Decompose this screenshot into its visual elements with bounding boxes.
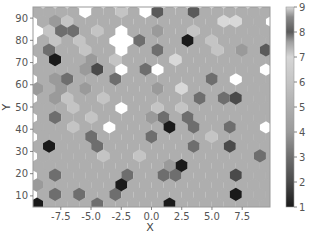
- colorbar-tick-label: 9: [299, 2, 305, 13]
- colorbar-tick-label: 2: [299, 177, 305, 188]
- hexbin-chart: -7.5-5.0-2.50.02.55.07.5 102030405060708…: [0, 0, 313, 236]
- colorbar-tick-label: 4: [299, 127, 305, 138]
- x-tick-label: 5.0: [204, 211, 220, 222]
- x-tick-label: 7.5: [234, 211, 250, 222]
- hexbin-cells: [31, 5, 278, 211]
- y-tick-label: 10: [15, 190, 28, 201]
- colorbar-tick-label: 1: [299, 202, 305, 213]
- colorbar-tick-label: 8: [299, 27, 305, 38]
- y-tick-label: 90: [15, 13, 28, 24]
- colorbar-ticks: 123456789: [294, 2, 305, 213]
- y-tick-label: 50: [15, 102, 28, 113]
- x-tick-label: -2.5: [112, 211, 132, 222]
- y-tick-label: 70: [15, 57, 28, 68]
- y-tick-label: 40: [15, 124, 28, 135]
- y-axis-title: Y: [0, 103, 13, 111]
- y-tick-label: 60: [15, 79, 28, 90]
- colorbar-tick-label: 7: [299, 52, 305, 63]
- colorbar: [286, 7, 294, 207]
- x-tick-label: -7.5: [51, 211, 71, 222]
- x-tick-label: 2.5: [174, 211, 190, 222]
- colorbar-tick-label: 3: [299, 152, 305, 163]
- colorbar-tick-label: 6: [299, 77, 305, 88]
- y-tick-label: 30: [15, 146, 28, 157]
- colorbar-tick-label: 5: [299, 102, 305, 113]
- y-tick-label: 80: [15, 35, 28, 46]
- x-axis-title: X: [146, 221, 154, 234]
- y-tick-label: 20: [15, 168, 28, 179]
- x-axis: -7.5-5.0-2.50.02.55.07.5: [51, 207, 250, 222]
- x-tick-label: -5.0: [81, 211, 101, 222]
- y-axis: 102030405060708090: [15, 13, 33, 202]
